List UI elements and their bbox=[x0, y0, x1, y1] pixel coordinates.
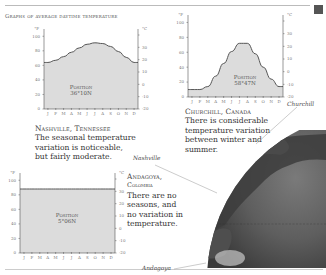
map-label-andagoya: Andagoya bbox=[142, 265, 171, 271]
map-label-nashville: Nashville bbox=[133, 155, 161, 161]
leader-lines bbox=[0, 0, 326, 275]
map-label-churchill: Churchill bbox=[287, 101, 314, 107]
